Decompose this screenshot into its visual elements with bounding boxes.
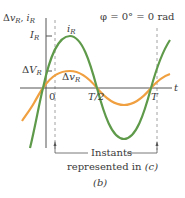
x-tick-period: T (151, 92, 158, 102)
x-tick-0-text: 0 (49, 91, 55, 102)
annotation-ref: (c) (145, 161, 158, 172)
y-label-delta: Δ (3, 12, 10, 23)
annotation-represented: represented in (67, 161, 145, 172)
arrow-up-icon (156, 141, 159, 146)
phase-title-text: φ = 0° = 0 rad (100, 11, 175, 22)
x-tick-half-text: T/2 (88, 91, 104, 102)
y-axis-label: ΔvR, iR (3, 13, 35, 26)
x-tick-0: 0 (49, 92, 55, 102)
current-curve-label: iR (67, 24, 75, 37)
tick-VR-sub: R (36, 69, 41, 77)
x-tick-half-period: T/2 (88, 92, 104, 102)
current-label-sub: R (70, 28, 75, 36)
annotation-line1: Instants (91, 148, 132, 158)
figure-caption: (b) (93, 178, 107, 188)
t-axis-label: t (174, 83, 178, 93)
annotation-instants: Instants (91, 147, 132, 158)
y-tick-label-IR: IR (30, 30, 39, 43)
tick-IR-sub: R (34, 34, 39, 42)
t-axis-label-text: t (174, 82, 178, 93)
arrow-up-icon (54, 141, 57, 146)
annotation-line2: represented in (c) (67, 162, 158, 172)
caption-text: (b) (93, 177, 107, 188)
y-tick-label-VR: ΔVR (22, 65, 42, 78)
x-tick-T-text: T (151, 91, 158, 102)
phasor-time-plot: φ = 0° = 0 rad ΔvR, iR IR ΔVR iR ΔvR 0 T… (0, 0, 185, 198)
phase-title: φ = 0° = 0 rad (100, 12, 175, 22)
voltage-curve-label: ΔvR (62, 72, 80, 85)
y-label-i-sub: R (30, 17, 35, 25)
voltage-label-sub: R (75, 76, 80, 84)
